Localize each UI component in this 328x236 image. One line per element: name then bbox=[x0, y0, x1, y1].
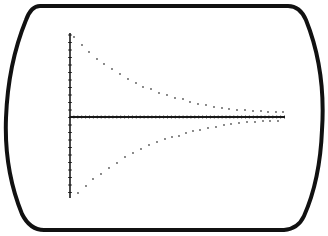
data-point bbox=[275, 111, 277, 113]
crt-screen bbox=[0, 0, 328, 236]
data-point bbox=[230, 123, 232, 125]
data-point bbox=[150, 88, 152, 90]
data-point bbox=[277, 120, 279, 122]
data-point bbox=[215, 126, 217, 128]
data-point bbox=[269, 120, 271, 122]
data-point bbox=[189, 101, 191, 103]
data-point bbox=[164, 138, 166, 140]
data-point bbox=[282, 111, 284, 113]
data-point bbox=[246, 121, 248, 123]
data-point bbox=[262, 120, 264, 122]
data-point bbox=[132, 152, 134, 154]
data-point bbox=[142, 86, 144, 88]
data-point bbox=[185, 132, 187, 134]
data-point bbox=[197, 103, 199, 105]
data-point bbox=[158, 92, 160, 94]
data-point bbox=[116, 162, 118, 164]
data-point bbox=[103, 63, 105, 65]
data-point bbox=[81, 44, 83, 46]
data-point bbox=[238, 122, 240, 124]
data-point bbox=[85, 185, 87, 187]
data-point bbox=[108, 167, 110, 169]
data-point bbox=[236, 109, 238, 111]
data-point bbox=[119, 73, 121, 75]
data-point bbox=[135, 82, 137, 84]
data-point bbox=[156, 141, 158, 143]
data-point bbox=[100, 173, 102, 175]
data-point bbox=[252, 110, 254, 112]
data-point bbox=[111, 68, 113, 70]
data-point bbox=[171, 136, 173, 138]
data-point bbox=[221, 107, 223, 109]
data-point bbox=[228, 108, 230, 110]
data-point bbox=[148, 144, 150, 146]
data-point bbox=[205, 104, 207, 106]
data-point bbox=[199, 129, 201, 131]
data-point bbox=[244, 109, 246, 111]
data-point bbox=[192, 130, 194, 132]
data-point bbox=[166, 94, 168, 96]
data-point bbox=[260, 110, 262, 112]
data-point bbox=[254, 121, 256, 123]
data-point bbox=[267, 111, 269, 113]
data-point bbox=[140, 148, 142, 150]
data-point bbox=[88, 51, 90, 53]
data-point bbox=[178, 135, 180, 137]
data-point bbox=[127, 78, 129, 80]
data-point bbox=[182, 98, 184, 100]
data-point bbox=[124, 156, 126, 158]
data-point bbox=[207, 127, 209, 129]
data-point bbox=[73, 36, 75, 38]
data-point bbox=[96, 58, 98, 60]
data-point bbox=[213, 106, 215, 108]
data-point bbox=[77, 192, 79, 194]
data-point bbox=[92, 178, 94, 180]
data-point bbox=[223, 124, 225, 126]
data-point bbox=[174, 97, 176, 99]
